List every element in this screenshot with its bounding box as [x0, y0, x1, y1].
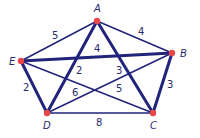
node-A: [94, 18, 100, 24]
edge-EC: [21, 61, 153, 113]
node-B: [169, 50, 175, 56]
node-label-E: E: [9, 56, 16, 67]
node-D: [44, 110, 50, 116]
edge-weight-AD: 2: [76, 65, 82, 76]
edge-weight-EB: 4: [94, 43, 100, 54]
node-E: [18, 58, 24, 64]
edge-weight-DC: 8: [96, 117, 102, 128]
edge-AC: [97, 21, 153, 113]
node-C: [150, 110, 156, 116]
edge-DB: [47, 53, 172, 113]
edge-EB: [21, 53, 172, 61]
node-label-B: B: [180, 48, 187, 59]
edge-weight-AB: 4: [138, 26, 144, 37]
node-label-D: D: [43, 120, 51, 131]
edge-weight-DB: 6: [72, 87, 78, 98]
node-label-A: A: [93, 3, 101, 14]
edge-weight-AE: 5: [52, 30, 58, 41]
edge-weight-EC: 5: [116, 83, 122, 94]
graph-canvas: 5442325638ABCDE: [0, 0, 200, 138]
edge-weight-ED: 2: [23, 82, 29, 93]
node-label-C: C: [150, 120, 157, 131]
graph-diagram: 5442325638ABCDE: [0, 0, 200, 138]
edge-weight-AC: 3: [116, 65, 122, 76]
edges-layer: [21, 21, 172, 113]
edge-weight-BC: 3: [167, 79, 173, 90]
